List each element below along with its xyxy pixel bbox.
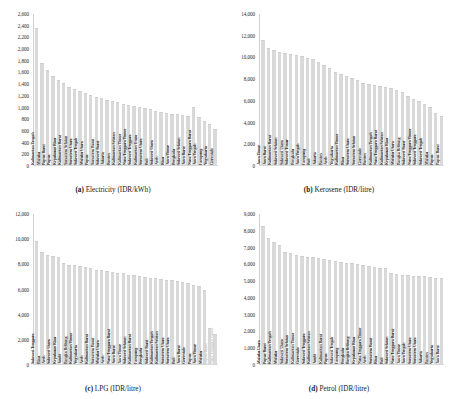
bar[interactable]	[440, 278, 443, 365]
bar-category-label: Jawa Tengah	[402, 343, 406, 364]
bar[interactable]	[46, 70, 49, 166]
bar-category-label: Maluku	[37, 152, 41, 165]
bar-category-label: Kepulauan Riau	[352, 337, 356, 364]
y-axis-tick-label: 2,200	[18, 34, 29, 40]
bar-series-c: Sulawesi TenggaraRiauAcehSulawesi UtaraK…	[34, 214, 218, 365]
y-axis-tick-label: 7,000	[244, 245, 255, 251]
bar[interactable]	[40, 252, 43, 365]
y-axis-tick-label: 12,000	[241, 33, 255, 39]
y-axis-tick-label: 1,600	[18, 69, 29, 75]
bar-category-label: Sulawesi Tengah	[74, 138, 78, 165]
bar[interactable]	[378, 268, 381, 365]
bar[interactable]	[35, 241, 38, 365]
bar-slot[interactable]: Nusa Tenggara Timur	[212, 214, 217, 365]
bar[interactable]	[317, 62, 320, 166]
bar-category-label: Riau	[37, 356, 41, 364]
bar-category-label: Gorontalo	[210, 148, 214, 165]
panel-caption-c: (c) LPG (IDR/litre)	[0, 383, 226, 399]
bar[interactable]	[311, 59, 314, 166]
y-axis-tick-label: 1,200	[18, 93, 29, 99]
bar-category-label: Gorontalo	[182, 347, 186, 364]
bar-category-label: Sumatera Utara	[139, 138, 143, 165]
chart-panel-b: 02,0004,0006,0008,00010,00012,00014,000 …	[226, 0, 452, 200]
bar-category-label: Papua Barat	[436, 144, 440, 165]
bar-category-label: Papua	[324, 354, 328, 365]
bar-category-label: Yogyakarta	[74, 345, 78, 364]
bar-category-label: Jawa Tengah	[193, 144, 197, 165]
bar-category-label: Maluku Utara	[391, 141, 395, 165]
bar[interactable]	[306, 58, 309, 166]
bar-category-label: Jawa Barat	[436, 345, 440, 364]
bar-category-label: Jawa Timur	[166, 145, 170, 165]
bar-category-label: Riau	[374, 356, 378, 364]
panel-caption-prefix-b: (b)	[304, 186, 313, 194]
y-axis-tick-label: 0	[27, 362, 30, 368]
bar-category-label: Sumatera Utara	[413, 337, 417, 364]
bar-slot[interactable]: Gorontalo	[212, 14, 217, 166]
bar-category-label: Sulawesi Selatan	[385, 337, 389, 364]
y-axis-tick-label: 10,000	[15, 236, 29, 242]
bar[interactable]	[35, 28, 38, 166]
y-axis-tick-label: 3,000	[244, 312, 255, 318]
y-axis-tick-label: 1,800	[18, 58, 29, 64]
bar[interactable]	[170, 280, 173, 365]
bar[interactable]	[322, 65, 325, 166]
bar[interactable]	[78, 266, 81, 365]
bar-category-label: Sulawesi Tenggara	[413, 134, 417, 165]
bar-category-label: Sumatera Selatan	[285, 335, 289, 364]
bar-category-label: Papua	[430, 155, 434, 166]
bar[interactable]	[100, 270, 103, 365]
y-axis-tick-label: 2,000	[244, 141, 255, 147]
bar-category-label: Jawa Barat	[182, 146, 186, 165]
panel-caption-text-a: Electricity (IDR/kWh)	[86, 186, 151, 194]
bar-category-label: Nusa Tenggara Barat	[374, 130, 378, 165]
bar-category-label: Banten	[425, 352, 429, 364]
bar-category-label: Papua	[85, 155, 89, 166]
y-axis-tick-label: 1,000	[244, 345, 255, 351]
bar-series-b: Jawa TimurJawa BaratKalimantan BaratSula…	[260, 14, 444, 166]
bar-category-label: Kalimantan Barat	[268, 135, 272, 165]
bar-category-label: Jawa Tengah	[296, 144, 300, 165]
bar-category-label: Nusa Tenggara Timur	[358, 328, 362, 364]
y-axis-tick-label: 14,000	[241, 11, 255, 17]
plot-area-c: 02,0004,0006,0008,00010,00012,000 Sulawe…	[2, 214, 218, 383]
y-axis-tick-label: 0	[253, 362, 256, 368]
bar-category-label: Maluku	[274, 351, 278, 364]
bar[interactable]	[339, 74, 342, 166]
bar-category-label: Aceh	[101, 356, 105, 364]
chart-panel-a: 02004006008001,0001,2001,4001,6001,8002,…	[0, 0, 226, 200]
bar-category-label: Jawa Timur	[257, 145, 261, 165]
bar-category-label: Sumatera Barat	[91, 139, 95, 165]
bar-category-label: Yogyakarta	[430, 345, 434, 364]
bar-category-label: Kalimantan Barat	[58, 135, 62, 165]
y-axis-tick-label: 600	[22, 128, 30, 134]
bar-category-label: Jawa Timur	[193, 344, 197, 364]
bar-category-label: Sulawesi Timur	[285, 139, 289, 165]
y-axis-d: 01,0002,0003,0004,0005,0006,0007,0008,00…	[228, 214, 258, 365]
bar-category-label: Aceh	[363, 356, 367, 364]
bar[interactable]	[440, 116, 443, 166]
bar-category-label: Jawa Timur	[118, 344, 122, 364]
bar-category-label: Sumatera Selatan	[352, 136, 356, 165]
panel-caption-d: (d) Petrol (IDR/litre)	[226, 383, 452, 399]
bar-category-label: Gorontalo	[296, 347, 300, 364]
y-axis-tick-label: 8,000	[244, 228, 255, 234]
bar-slot[interactable]: Papua Barat	[439, 14, 445, 166]
y-axis-tick-label: 8,000	[18, 261, 29, 267]
bar-category-label: Kalimantan Barat	[85, 334, 89, 364]
bar-category-label: Jakarta	[101, 152, 105, 165]
y-axis-b: 02,0004,0006,0008,00010,00012,00014,000	[228, 14, 258, 166]
bar-category-label: Aceh	[155, 157, 159, 165]
bar-category-label: Sulawesi Selatan	[274, 138, 278, 165]
bar[interactable]	[57, 257, 60, 365]
bar-category-label: Yogyakarta	[204, 146, 208, 165]
bar-slot[interactable]: Jawa Barat	[439, 214, 445, 365]
panel-caption-text-b: Kerosene (IDR/litre)	[314, 186, 374, 194]
bar-series-d: Maluku UtaraPapua BaratKalimantan Tengah…	[260, 214, 444, 365]
bar[interactable]	[373, 267, 376, 365]
bar-category-label: Jambi	[313, 354, 317, 364]
y-axis-tick-label: 400	[22, 140, 30, 146]
bar-category-label: Banten	[319, 153, 323, 165]
bar[interactable]	[272, 242, 275, 365]
bar[interactable]	[311, 257, 314, 365]
